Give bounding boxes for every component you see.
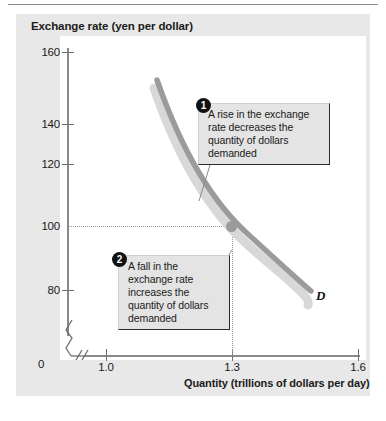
annotation-badge-1: 1 xyxy=(196,98,211,113)
annotation-text-1: A rise in the exchange rate decreases th… xyxy=(208,108,309,159)
callout-leader-lines xyxy=(0,0,386,421)
annotation-callout-2: A fall in the exchange rate increases th… xyxy=(118,255,230,330)
annotation-badge-2: 2 xyxy=(112,252,127,267)
exchange-rate-demand-curve-figure: Exchange rate (yen per dollar) 160 140 1… xyxy=(0,0,386,421)
annotation-text-2: A fall in the exchange rate increases th… xyxy=(128,260,208,324)
annotation-callout-1: A rise in the exchange rate decreases th… xyxy=(198,103,330,165)
x-axis-caption: Quantity (trillions of dollars per day) xyxy=(184,377,370,389)
